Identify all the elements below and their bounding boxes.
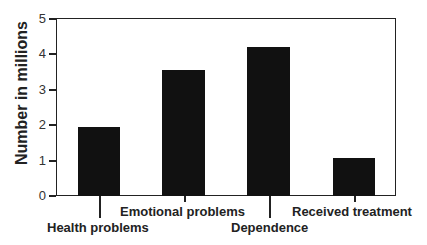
- x-leader-line: [269, 196, 271, 218]
- y-tick-label: 0: [34, 189, 46, 202]
- bar-received-treatment: [333, 158, 375, 196]
- x-leader-line: [99, 196, 101, 218]
- x-leader-line: [184, 196, 186, 202]
- y-tick-label: 3: [34, 83, 46, 96]
- y-tick-label: 2: [34, 118, 46, 131]
- y-tick: [49, 89, 56, 91]
- y-axis-title: Number in millions: [13, 45, 31, 165]
- bar-emotional-problems: [162, 70, 205, 196]
- y-tick: [49, 18, 56, 20]
- y-tick-label: 4: [34, 47, 46, 60]
- x-label-emotional-problems: Emotional problems: [120, 204, 245, 219]
- x-label-received-treatment: Received treatment: [292, 204, 412, 219]
- bar-dependence: [247, 47, 290, 196]
- x-leader-line: [354, 196, 356, 202]
- y-tick: [49, 195, 56, 197]
- bar-health-problems: [78, 127, 120, 196]
- y-tick-label: 1: [34, 154, 46, 167]
- y-tick: [49, 160, 56, 162]
- x-label-dependence: Dependence: [231, 220, 308, 235]
- y-tick-label: 5: [34, 12, 46, 25]
- y-tick: [49, 124, 56, 126]
- x-label-health-problems: Health problems: [47, 220, 149, 235]
- y-tick: [49, 53, 56, 55]
